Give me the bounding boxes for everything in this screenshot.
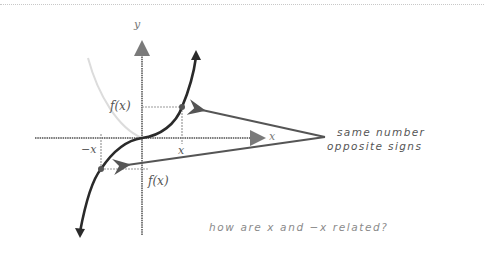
curve-arrow-bottom-icon (75, 228, 85, 238)
point-positive (179, 104, 185, 110)
note-line-1: same number (337, 126, 425, 138)
pointer-arrow-top (202, 110, 325, 137)
x-positive-label: x (178, 144, 184, 157)
point-negative (98, 166, 104, 172)
x-negative-label: −x (81, 143, 96, 156)
curve-arrow-top-icon (191, 50, 201, 60)
fx-negative-label: f(x) (148, 174, 169, 188)
x-axis-label: x (269, 130, 275, 143)
fx-positive-label: f(x) (110, 99, 131, 113)
ghost-curve (88, 58, 142, 138)
question-text: how are x and −x related? (209, 221, 389, 233)
pointer-arrow-bottom (127, 137, 325, 165)
y-axis-label: y (134, 18, 140, 31)
note-line-2: opposite signs (327, 140, 422, 152)
